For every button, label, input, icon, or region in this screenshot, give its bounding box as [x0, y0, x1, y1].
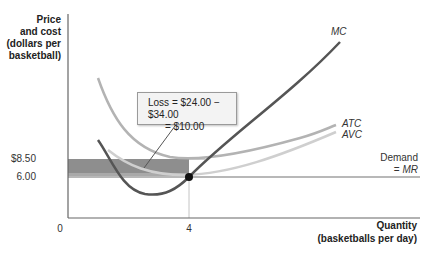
y-axis-title-line: (dollars per — [0, 38, 61, 50]
demand-label-line: = MR — [380, 164, 418, 176]
loss-callout: Loss = $24.00 − $34.00 = $10.00 — [137, 92, 237, 125]
x-axis-title-line: Quantity — [318, 219, 417, 232]
demand-mr-label: Demand = MR — [380, 152, 418, 176]
callout-line: Loss = $24.00 − $34.00 — [148, 97, 236, 121]
x-tick-0: 0 — [50, 223, 70, 235]
avc-label: AVC — [342, 129, 362, 141]
loss-area — [68, 159, 189, 173]
mc-label: MC — [331, 26, 347, 38]
y-axis-title-line: basketball) — [0, 50, 61, 62]
x-axis-title: Quantity (basketballs per day) — [318, 219, 417, 245]
y-axis-title: Price and cost (dollars per basketball) — [0, 14, 61, 62]
y-axis-title-line: Price — [0, 14, 61, 26]
mr-label: MR — [402, 164, 418, 175]
y-tick-6-00: 6.00 — [0, 171, 36, 183]
profit-max-point — [185, 173, 193, 181]
y-axis-title-line: and cost — [0, 26, 61, 38]
x-tick-4: 4 — [179, 223, 199, 235]
demand-label-line: Demand — [380, 152, 418, 164]
x-axis-title-line: (basketballs per day) — [318, 232, 417, 245]
y-tick-8-50: $8.50 — [0, 153, 36, 165]
callout-line: = $10.00 — [148, 121, 236, 133]
